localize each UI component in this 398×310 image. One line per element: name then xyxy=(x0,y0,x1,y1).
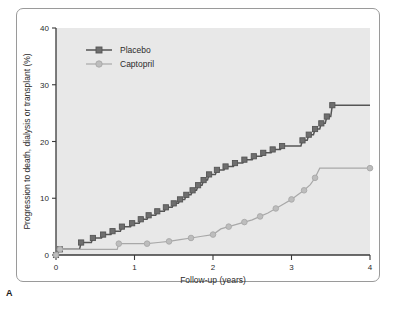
figure-panel: 01020304001234Follow-up (years)Progressi… xyxy=(0,0,398,310)
data-marker xyxy=(163,205,168,210)
data-marker xyxy=(155,209,160,214)
data-marker xyxy=(53,252,59,258)
data-marker xyxy=(289,197,295,203)
data-marker xyxy=(144,241,150,247)
data-marker xyxy=(257,214,263,220)
data-marker xyxy=(177,197,182,202)
x-axis-title: Follow-up (years) xyxy=(180,275,246,285)
data-marker xyxy=(261,150,266,155)
data-marker xyxy=(214,167,219,172)
data-marker xyxy=(279,143,284,148)
data-marker xyxy=(273,206,279,212)
data-marker xyxy=(201,177,206,182)
data-marker xyxy=(330,103,335,108)
survival-chart: 01020304001234Follow-up (years)Progressi… xyxy=(0,0,398,310)
data-marker xyxy=(184,192,189,197)
panel-label: A xyxy=(6,288,13,298)
data-marker xyxy=(146,213,151,218)
data-marker xyxy=(270,147,275,152)
data-marker xyxy=(306,132,311,137)
x-tick-label: 2 xyxy=(211,263,216,272)
x-tick-label: 0 xyxy=(54,263,59,272)
plot-background xyxy=(56,28,370,255)
data-marker xyxy=(119,224,124,229)
x-tick-label: 1 xyxy=(132,263,137,272)
y-axis-title: Progression to death, dialysis or transp… xyxy=(22,53,32,229)
data-marker xyxy=(232,160,237,165)
data-marker xyxy=(301,188,307,194)
x-tick-label: 3 xyxy=(289,263,294,272)
data-marker xyxy=(210,232,216,238)
legend-label: Placebo xyxy=(120,45,151,55)
data-marker xyxy=(57,247,63,253)
data-marker xyxy=(79,240,84,245)
y-tick-label: 30 xyxy=(40,81,49,90)
data-marker xyxy=(166,239,172,245)
x-tick-label: 4 xyxy=(368,263,373,272)
data-marker xyxy=(251,154,256,159)
data-marker xyxy=(312,175,318,181)
legend-label: Captopril xyxy=(120,59,154,69)
data-marker xyxy=(367,165,373,171)
y-tick-label: 20 xyxy=(40,138,49,147)
data-marker xyxy=(138,217,143,222)
data-marker xyxy=(110,229,115,234)
data-marker xyxy=(242,157,247,162)
data-marker xyxy=(101,232,106,237)
data-marker xyxy=(171,201,176,206)
data-marker xyxy=(195,183,200,188)
y-tick-label: 40 xyxy=(40,24,49,33)
legend-marker-circle xyxy=(96,61,102,67)
y-tick-label: 0 xyxy=(45,251,50,260)
data-marker xyxy=(188,235,194,241)
data-marker xyxy=(226,224,232,230)
data-marker xyxy=(319,121,324,126)
data-marker xyxy=(312,126,317,131)
data-marker xyxy=(223,164,228,169)
data-marker xyxy=(242,219,248,225)
data-marker xyxy=(206,172,211,177)
data-marker xyxy=(190,188,195,193)
legend-marker-square xyxy=(96,47,102,53)
data-marker xyxy=(324,114,329,119)
data-marker xyxy=(130,221,135,226)
data-marker xyxy=(300,138,305,143)
data-marker xyxy=(116,241,122,247)
data-marker xyxy=(90,235,95,240)
y-tick-label: 10 xyxy=(40,194,49,203)
